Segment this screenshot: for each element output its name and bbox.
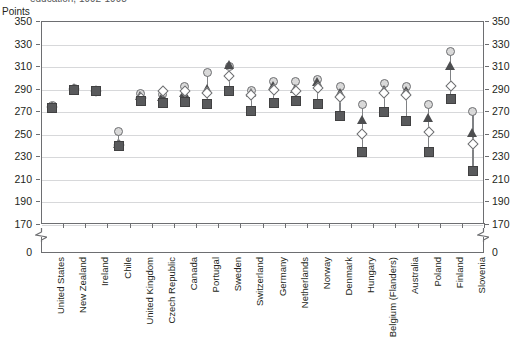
data-point-square (313, 99, 323, 109)
y-tick-label-right: 270 (492, 106, 522, 116)
data-point-square (446, 94, 456, 104)
x-tick-mark (130, 223, 131, 228)
y-tick-mark-right (485, 21, 489, 22)
y-tick-mark-left (36, 89, 40, 90)
y-tick-mark-right (485, 156, 489, 157)
data-point-square (47, 103, 57, 113)
x-tick-mark (484, 223, 485, 228)
data-point-square (401, 116, 411, 126)
data-point-circle (203, 68, 212, 77)
zero-axis-line (41, 252, 484, 253)
x-tick-mark (107, 223, 108, 228)
data-series-layer (41, 21, 484, 224)
data-point-triangle (423, 113, 433, 122)
y-tick-mark-left (36, 224, 40, 225)
x-tick-mark (373, 223, 374, 228)
x-axis-label: Australia (410, 257, 419, 294)
x-axis-label: Hungary (366, 257, 375, 293)
data-point-circle (358, 100, 367, 109)
data-point-square (246, 106, 256, 116)
x-axis-label: Chile (123, 257, 132, 279)
x-tick-mark (263, 223, 264, 228)
y-tick-label-right: 190 (492, 196, 522, 206)
data-point-square (379, 107, 389, 117)
x-axis-label: Germany (278, 257, 287, 296)
y-tick-label-left: 250 (2, 129, 32, 139)
x-tick-mark (63, 223, 64, 228)
chart-title: education, 1992-1998 (30, 0, 127, 4)
data-point-circle (468, 107, 477, 116)
y-tick-mark-right (485, 111, 489, 112)
y-tick-label-left: 270 (2, 106, 32, 116)
y-tick-label-right-zero: 0 (492, 247, 522, 257)
data-point-circle (424, 100, 433, 109)
data-point-square (202, 99, 212, 109)
x-tick-mark (462, 223, 463, 228)
y-tick-label-left: 290 (2, 84, 32, 94)
x-tick-mark (218, 223, 219, 228)
x-axis-label: Switzerland (255, 257, 264, 306)
y-tick-label-left: 210 (2, 174, 32, 184)
x-axis-label: Poland (433, 257, 442, 287)
data-point-triangle (224, 60, 234, 69)
y-tick-mark-right (485, 224, 489, 225)
x-axis-label: Denmark (344, 257, 353, 296)
x-tick-mark (152, 223, 153, 228)
data-point-diamond (467, 138, 478, 149)
y-tick-mark-left (36, 21, 40, 22)
data-point-square (335, 111, 345, 121)
y-tick-mark-right (485, 179, 489, 180)
data-point-square (91, 86, 101, 96)
y-tick-label-left: 190 (2, 196, 32, 206)
y-tick-label-right: 230 (492, 151, 522, 161)
y-tick-mark-left (36, 111, 40, 112)
data-point-square (69, 85, 79, 95)
x-tick-mark (174, 223, 175, 228)
x-tick-mark (85, 223, 86, 228)
x-axis-label: United Kingdom (145, 257, 154, 325)
x-tick-mark (240, 223, 241, 228)
y-tick-label-right: 350 (492, 16, 522, 26)
zero-axis-right-cap (483, 237, 484, 253)
data-point-square (158, 98, 168, 108)
data-point-square (136, 96, 146, 106)
y-tick-mark-right (485, 201, 489, 202)
y-tick-label-left-zero: 0 (2, 247, 32, 257)
x-axis-label: Sweden (233, 257, 242, 291)
y-tick-mark-left (36, 44, 40, 45)
x-tick-mark (440, 223, 441, 228)
data-point-circle (114, 127, 123, 136)
data-point-square (114, 141, 124, 151)
y-tick-mark-left (36, 156, 40, 157)
x-axis-label: Belgium (Flanders) (388, 257, 397, 337)
data-point-diamond (445, 81, 456, 92)
x-axis-labels: United StatesNew ZealandIrelandChileUnit… (41, 253, 484, 321)
x-axis-label: Finland (455, 257, 464, 288)
data-point-square (357, 147, 367, 157)
x-axis-label: Portugal (211, 257, 220, 292)
x-axis-label: United States (56, 257, 65, 314)
y-tick-label-right: 290 (492, 84, 522, 94)
data-point-square (180, 97, 190, 107)
zero-axis-left-cap (41, 237, 42, 253)
y-tick-label-right: 250 (492, 129, 522, 139)
data-point-circle (446, 47, 455, 56)
x-tick-mark (395, 223, 396, 228)
y-tick-label-left: 350 (2, 16, 32, 26)
x-tick-mark (307, 223, 308, 228)
data-point-diamond (224, 71, 235, 82)
data-point-diamond (423, 126, 434, 137)
y-tick-label-right: 310 (492, 61, 522, 71)
y-tick-label-left: 230 (2, 151, 32, 161)
data-point-square (224, 86, 234, 96)
x-tick-mark (329, 223, 330, 228)
y-tick-label-left: 310 (2, 61, 32, 71)
x-tick-mark (196, 223, 197, 228)
y-tick-mark-right (485, 66, 489, 67)
y-tick-label-right: 330 (492, 39, 522, 49)
y-tick-mark-left (36, 66, 40, 67)
x-axis-label: Canada (189, 257, 198, 290)
y-tick-mark-left (36, 201, 40, 202)
data-point-triangle (445, 61, 455, 70)
y-tick-label-right: 210 (492, 174, 522, 184)
